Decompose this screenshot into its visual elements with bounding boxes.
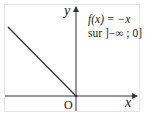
y-axis-label: y [64, 4, 70, 18]
origin-label: O [64, 99, 73, 111]
function-line [8, 27, 76, 96]
function-label: f(x) = −x [88, 14, 130, 26]
origin-point [75, 95, 78, 98]
domain-label: sur ]−∞ ; 0] [88, 28, 142, 40]
x-axis-label: x [125, 96, 131, 110]
